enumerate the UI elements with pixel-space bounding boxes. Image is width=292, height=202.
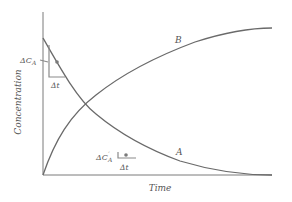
- delta-t2-label: Δt: [119, 163, 129, 172]
- delta-t1-label: Δt: [50, 81, 60, 90]
- x-axis-label: Time: [149, 183, 172, 193]
- curve-b: [43, 28, 272, 175]
- delta-ca-leader: [40, 60, 48, 62]
- y-axis-label: Concentration: [13, 69, 23, 134]
- curve-a: [43, 38, 272, 175]
- delta-ca-label: ΔCA: [19, 56, 37, 66]
- curve-a-label: A: [175, 147, 183, 157]
- concentration-time-diagram: Concentration Time B A ΔCA Δt ΔCA′ Δt: [0, 0, 292, 202]
- curve-b-label: B: [174, 35, 182, 45]
- tangent-point-2: [124, 153, 128, 157]
- tangent-point-1: [55, 60, 59, 64]
- delta-ca-prime-label: ΔCA′: [95, 150, 113, 163]
